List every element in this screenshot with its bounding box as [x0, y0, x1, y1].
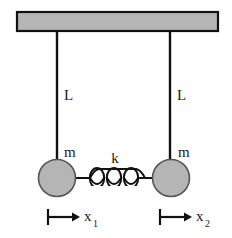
- spring-constant-label: k: [111, 150, 119, 166]
- right-string-length-label: L: [177, 87, 186, 103]
- left-string-length-label: L: [64, 87, 73, 103]
- spring-bottom-mask: [76, 186, 154, 198]
- right-pendulum-bob: [153, 160, 190, 197]
- spring-bottom-arc-2: [107, 178, 121, 184]
- x2-label: x: [196, 208, 204, 224]
- ceiling-support-bar: [17, 12, 218, 31]
- figure-canvas: L L k m m: [0, 0, 232, 238]
- left-pendulum-bob: [39, 160, 76, 197]
- right-mass-label: m: [178, 144, 190, 160]
- x2-subscript: 2: [205, 218, 210, 229]
- x1-label: x: [84, 208, 92, 224]
- x2-arrow-head: [184, 213, 192, 222]
- coupling-spring: [76, 168, 154, 198]
- displacement-x1: x 1: [48, 208, 98, 229]
- spring-bottom-arc-3: [124, 178, 138, 184]
- coupled-pendulum-figure: L L k m m: [0, 0, 232, 238]
- x1-arrow-head: [72, 213, 80, 222]
- x1-subscript: 1: [93, 218, 98, 229]
- left-mass-label: m: [64, 144, 76, 160]
- displacement-x2: x 2: [160, 208, 210, 229]
